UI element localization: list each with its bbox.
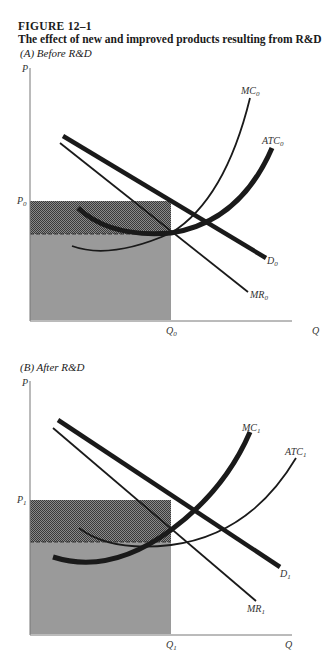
total-cost-area-b <box>30 542 171 634</box>
economic-profit-area-a <box>30 201 171 234</box>
panel-b: P Q P1 Q1 MC1 ATC1 D1 MR1 <box>16 377 306 652</box>
d0-label: D0 <box>266 255 278 268</box>
total-cost-area-a <box>30 234 171 320</box>
economic-profit-area-b <box>30 500 171 542</box>
p0-label: P0 <box>16 195 27 208</box>
mr1-label: MR1 <box>246 603 265 616</box>
diagram-canvas: P Q P0 Q0 MC0 ATC0 D0 MR0 P Q P1 Q1 MC1 … <box>0 0 336 667</box>
d1-label: D1 <box>279 568 291 581</box>
p1-label: P1 <box>16 494 27 507</box>
panel-a: P Q P0 Q0 MC0 ATC0 D0 MR0 <box>16 63 320 338</box>
y-axis-label-b: P <box>21 377 28 388</box>
q0-label: Q0 <box>166 325 177 338</box>
mr0-label: MR0 <box>249 289 268 302</box>
x-axis-label-a: Q <box>312 325 320 336</box>
mc0-label: MC0 <box>240 85 260 98</box>
atc1-label: ATC1 <box>284 446 306 459</box>
y-axis-label-a: P <box>21 63 28 74</box>
q1-label: Q1 <box>166 639 177 652</box>
x-axis-label-b: Q <box>285 639 293 650</box>
atc0-label: ATC0 <box>261 135 284 148</box>
